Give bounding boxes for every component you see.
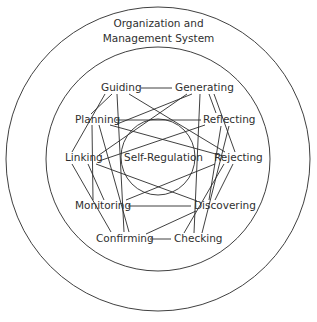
node-guiding: Guiding bbox=[101, 82, 142, 93]
node-discovering: Discovering bbox=[194, 200, 256, 211]
edge-rejecting-monitoring bbox=[126, 164, 215, 200]
node-linking: Linking bbox=[65, 152, 103, 163]
edge-guiding-planning bbox=[91, 94, 112, 114]
title-line-2: Management System bbox=[0, 31, 317, 46]
node-rejecting: Rejecting bbox=[214, 152, 263, 163]
node-reflecting: Reflecting bbox=[203, 114, 256, 125]
edge-group bbox=[72, 88, 235, 239]
node-generating: Generating bbox=[175, 82, 234, 93]
edge-linking-confirming bbox=[72, 164, 111, 232]
edge-linking-monitoring bbox=[88, 164, 104, 200]
edge-linking-discovering bbox=[96, 164, 197, 201]
center-self-regulation: Self-Regulation bbox=[124, 152, 203, 163]
edge-discovering-confirming bbox=[146, 211, 196, 234]
node-planning: Planning bbox=[75, 114, 120, 125]
node-monitoring: Monitoring bbox=[75, 200, 131, 211]
node-confirming: Confirming bbox=[96, 233, 154, 244]
node-checking: Checking bbox=[174, 233, 223, 244]
title-line-1: Organization and bbox=[0, 16, 317, 31]
